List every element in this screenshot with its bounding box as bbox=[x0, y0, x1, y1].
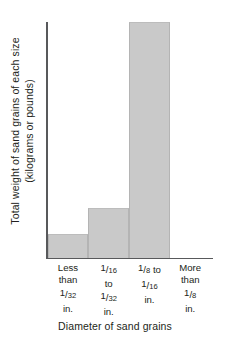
x-axis-category-labels: Lessthan1/32in.1/16to1/32in.1/8 to1/16in… bbox=[48, 262, 211, 318]
category-label-line: than bbox=[48, 274, 89, 286]
category-label: Lessthan1/32in. bbox=[48, 262, 89, 318]
fraction-denominator: 16 bbox=[109, 266, 117, 275]
fraction-denominator: 16 bbox=[149, 282, 157, 291]
category-label: 1/16to1/32in. bbox=[88, 262, 129, 318]
bar-cell bbox=[48, 22, 89, 258]
fraction: 1/8 bbox=[184, 289, 196, 300]
fraction-suffix: to bbox=[150, 264, 161, 275]
x-axis-title: Diameter of sand grains bbox=[0, 320, 230, 333]
sand-grain-histogram-figure: Total weight of sand grains of each size… bbox=[0, 0, 230, 341]
category-label-line: More bbox=[170, 262, 211, 274]
category-label-line: than bbox=[170, 274, 211, 286]
bar-cell bbox=[88, 22, 129, 258]
category-label-line: in. bbox=[170, 303, 211, 315]
bar bbox=[129, 22, 170, 258]
category-label-line: 1/16 bbox=[88, 262, 129, 278]
fraction-denominator: 32 bbox=[68, 291, 76, 300]
category-label-line: to bbox=[88, 278, 129, 290]
y-axis-title: Total weight of sand grains of each size… bbox=[0, 0, 44, 262]
category-label-line: 1/16 bbox=[129, 278, 170, 294]
fraction: 1/16 bbox=[141, 280, 157, 291]
fraction-denominator: 8 bbox=[192, 291, 196, 300]
fraction: 1/32 bbox=[100, 292, 116, 303]
fraction: 1/16 bbox=[100, 264, 116, 275]
fraction: 1/32 bbox=[60, 289, 76, 300]
y-axis-title-line-1: Total weight of sand grains of each size bbox=[9, 37, 23, 224]
bar-cell bbox=[170, 22, 211, 258]
category-label-line: 1/32 bbox=[88, 290, 129, 306]
category-label-line: 1/8 bbox=[170, 287, 211, 303]
category-label-line: in. bbox=[129, 294, 170, 306]
fraction: 1/8 bbox=[138, 264, 150, 275]
fraction-denominator: 32 bbox=[109, 295, 117, 304]
bar bbox=[88, 208, 129, 257]
x-axis-line bbox=[46, 258, 213, 260]
bar bbox=[48, 234, 89, 258]
bars-container bbox=[48, 22, 211, 258]
category-label: 1/8 to1/16in. bbox=[129, 262, 170, 318]
category-label-line: 1/32 bbox=[48, 287, 89, 303]
bar-cell bbox=[129, 22, 170, 258]
category-label: Morethan1/8in. bbox=[170, 262, 211, 318]
category-label-line: Less bbox=[48, 262, 89, 274]
y-axis-title-line-2: (kilograms or pounds) bbox=[22, 37, 36, 224]
category-label-line: 1/8 to bbox=[129, 262, 170, 278]
plot-area bbox=[46, 22, 213, 259]
category-label-line: in. bbox=[48, 303, 89, 315]
category-label-line: in. bbox=[88, 306, 129, 318]
